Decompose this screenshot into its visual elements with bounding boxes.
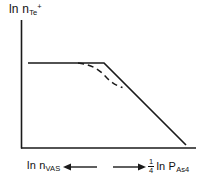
x-axis-label-left-subscript: VAS: [46, 164, 61, 173]
quarter-fraction: 1 4: [148, 158, 154, 175]
y-axis-label-superscript: +: [37, 2, 42, 11]
x-axis-label-right-subscript: As4: [176, 165, 189, 174]
y-axis-label: ln nTe+: [9, 3, 42, 17]
ideal-solid-curve: [28, 63, 186, 145]
x-axis-label-right-base: ln P: [156, 160, 176, 172]
y-axis-label-base: ln n: [9, 2, 29, 16]
x-axis-label-left-base: ln n: [27, 159, 46, 171]
figure-container: ln nTe+ ln nVAS 1 4 ln PAs4: [0, 0, 201, 182]
x-axis-label-left: ln nVAS: [27, 160, 60, 173]
fraction-numerator: 1: [148, 158, 154, 166]
left-arrow-head-icon: [63, 163, 71, 170]
right-arrow-head-icon: [138, 163, 146, 170]
fraction-denominator: 4: [148, 166, 154, 175]
plot-canvas: [0, 0, 201, 182]
x-axis-label-right: 1 4 ln PAs4: [148, 159, 189, 176]
